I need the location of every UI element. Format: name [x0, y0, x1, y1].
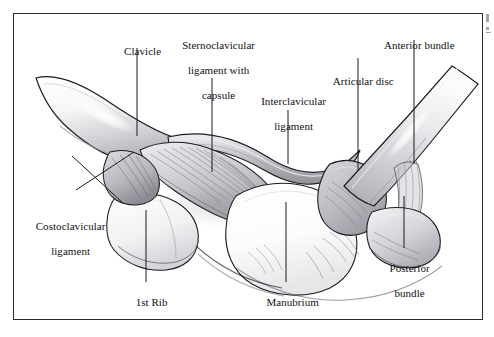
label-anterior-bundle: Anterior bundle — [361, 27, 467, 64]
label-sternoclavicular-line-3: capsule — [202, 89, 235, 101]
label-manubrium: Manubrium — [248, 284, 326, 321]
label-posterior-bundle-line-1: Posterior — [390, 262, 430, 274]
label-costoclavicular-ligament: Costoclavicular ligament — [17, 208, 113, 270]
label-first-rib-line-1: 1st Rib — [136, 296, 168, 308]
label-sternoclavicular-line-1: Sternoclavicular — [182, 39, 255, 51]
label-costoclavicular-line-2: ligament — [51, 245, 90, 257]
label-sternoclavicular-line-2: ligament with — [188, 64, 249, 76]
label-anterior-bundle-line-1: Anterior bundle — [384, 39, 455, 51]
label-posterior-bundle-line-2: bundle — [394, 287, 424, 299]
figure-root: Clavicle Sternoclavicular ligament with … — [0, 0, 494, 337]
label-posterior-bundle: Posterior bundle — [366, 250, 442, 312]
page-edge-artifact — [484, 12, 494, 38]
label-interclavicular-line-2: ligament — [274, 120, 313, 132]
label-articular-disc: Articular disc — [311, 63, 405, 100]
label-manubrium-line-1: Manubrium — [266, 296, 318, 308]
label-costoclavicular-line-1: Costoclavicular — [36, 220, 106, 232]
label-first-rib: 1st Rib — [118, 284, 174, 321]
label-articular-disc-line-1: Articular disc — [333, 75, 394, 87]
